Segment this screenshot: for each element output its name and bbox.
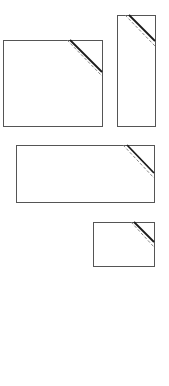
diagram-canvas <box>0 0 169 386</box>
corner-solid-line <box>134 222 154 242</box>
rectangle-outline <box>94 223 155 267</box>
rectangle-outline <box>4 41 103 127</box>
corner-dashed-line <box>123 145 154 178</box>
corner-dashed-line <box>125 15 155 46</box>
corner-solid-line <box>127 145 154 173</box>
wide-rectangle <box>17 145 155 203</box>
corner-solid-line <box>129 15 155 41</box>
corner-dashed-line <box>131 222 154 247</box>
rectangle-outline <box>118 16 156 127</box>
portrait-rectangle <box>118 15 156 127</box>
small-rectangle <box>94 222 155 267</box>
corner-solid-line <box>70 40 102 72</box>
corner-dashed-line <box>67 40 102 76</box>
landscape-rectangle <box>4 40 103 127</box>
rectangle-outline <box>17 146 155 203</box>
